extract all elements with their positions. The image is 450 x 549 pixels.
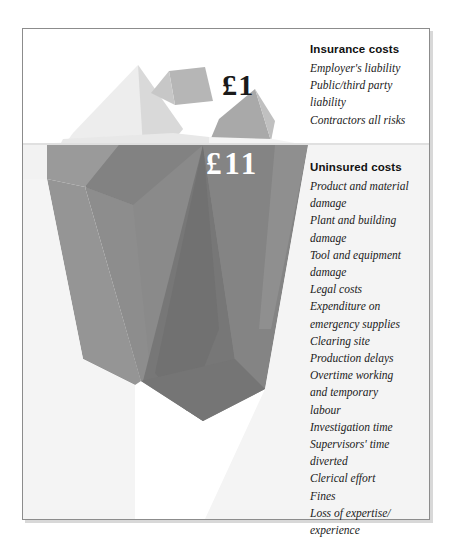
insurance-costs-heading: Insurance costs bbox=[310, 41, 430, 58]
waterline bbox=[23, 143, 429, 145]
list-item: Fines bbox=[310, 488, 430, 505]
iceberg-tip-group bbox=[49, 65, 295, 147]
below-water-cost-label: £11 bbox=[206, 146, 259, 182]
uninsured-costs-heading: Uninsured costs bbox=[310, 159, 430, 176]
figure-canvas: £1 £11 Insurance costs Employer's liabil… bbox=[0, 0, 450, 549]
left-water-gap bbox=[23, 145, 47, 179]
tip-peak-dark-facet bbox=[169, 67, 213, 105]
list-item: Clerical effort bbox=[310, 470, 430, 487]
list-item: Plant and building damage bbox=[310, 212, 430, 246]
list-item: Production delays bbox=[310, 350, 430, 367]
uninsured-costs-list: Product and material damage Plant and bu… bbox=[310, 178, 430, 539]
list-item: Investigation time bbox=[310, 419, 430, 436]
list-item: Legal costs bbox=[310, 281, 430, 298]
insurance-costs-column: Insurance costs Employer's liability Pub… bbox=[310, 41, 430, 129]
above-water-cost-label: £1 bbox=[222, 68, 254, 102]
list-item: Tool and equipment damage bbox=[310, 247, 430, 281]
list-item: Loss of expertise/ experience bbox=[310, 505, 430, 539]
list-item: Product and material damage bbox=[310, 178, 430, 212]
list-item: Public/third party liability bbox=[310, 77, 430, 111]
insurance-costs-list: Employer's liability Public/third party … bbox=[310, 60, 430, 129]
list-item: Clearing site bbox=[310, 333, 430, 350]
list-item: Supervisors' time diverted bbox=[310, 436, 430, 470]
list-item: Contractors all risks bbox=[310, 112, 430, 129]
list-item: Employer's liability bbox=[310, 60, 430, 77]
list-item: Overtime working and temporary labour bbox=[310, 367, 430, 419]
uninsured-costs-column: Uninsured costs Product and material dam… bbox=[310, 159, 430, 539]
list-item: Expenditure on emergency supplies bbox=[310, 298, 430, 332]
